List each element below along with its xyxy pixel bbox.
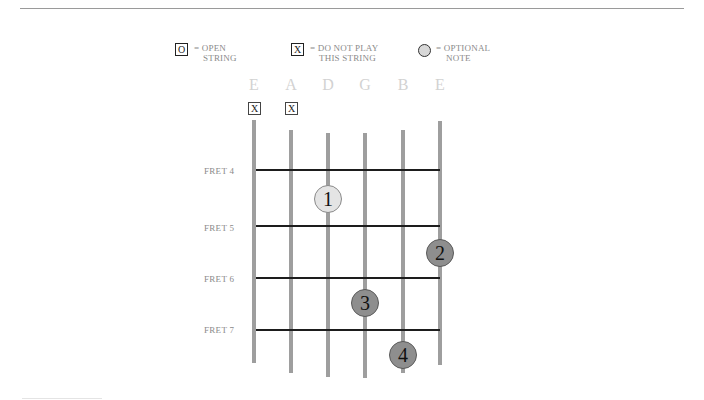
- finger-dot-1: 1: [314, 185, 342, 213]
- legend-open-line1: = OPEN: [194, 43, 226, 53]
- fret-line-7: [256, 329, 440, 331]
- legend-mute-line2: THIS STRING: [319, 53, 376, 63]
- fret-label-6: FRET 6: [204, 274, 234, 284]
- fret-line-6: [256, 277, 440, 279]
- string-name-d: D: [318, 76, 338, 94]
- legend-optional-line1: = OPTIONAL: [436, 43, 490, 53]
- mute-string-icon: X: [291, 43, 304, 56]
- fret-label-5: FRET 5: [204, 223, 234, 233]
- string-name-low-e: E: [244, 76, 264, 94]
- legend-mute-line1: = DO NOT PLAY: [310, 43, 378, 53]
- finger-dot-3: 3: [351, 289, 379, 317]
- legend-open-line2: STRING: [203, 53, 237, 63]
- fret-label-4: FRET 4: [204, 166, 234, 176]
- optional-note-icon: [418, 44, 431, 57]
- string-b: [401, 130, 405, 373]
- bottom-divider: [22, 398, 102, 399]
- legend-optional-line2: NOTE: [446, 53, 471, 63]
- string-low-e: [252, 120, 256, 363]
- mute-marker-low-e: X: [248, 102, 261, 115]
- fret-label-7: FRET 7: [204, 325, 234, 335]
- finger-dot-4: 4: [389, 341, 417, 369]
- top-divider: [20, 8, 684, 9]
- string-name-b: B: [393, 76, 413, 94]
- open-string-icon: O: [175, 43, 188, 56]
- string-a: [289, 130, 293, 373]
- finger-dot-2: 2: [426, 239, 454, 267]
- string-name-high-e: E: [430, 76, 450, 94]
- fret-line-4: [256, 169, 440, 171]
- fret-line-5: [256, 225, 440, 227]
- string-name-g: G: [355, 76, 375, 94]
- mute-marker-a: X: [285, 102, 298, 115]
- string-name-a: A: [281, 76, 301, 94]
